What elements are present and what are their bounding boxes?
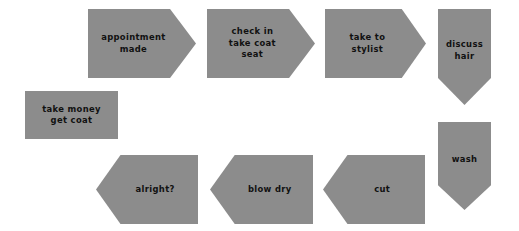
- flowchart-canvas: appointment madecheck in take coat seatt…: [0, 0, 519, 231]
- flow-node-label: wash: [438, 154, 491, 178]
- flow-node-label: alright?: [96, 184, 198, 196]
- flow-node-label: check in take coat seat: [207, 26, 315, 61]
- flow-node-discuss-hair[interactable]: discuss hair: [438, 9, 491, 105]
- flow-node-cut[interactable]: cut: [323, 155, 425, 224]
- flow-node-label: blow dry: [210, 184, 313, 196]
- flow-node-wash[interactable]: wash: [438, 122, 491, 210]
- flow-node-label: discuss hair: [438, 39, 491, 75]
- flow-node-alright[interactable]: alright?: [96, 155, 198, 224]
- flow-node-label: take money get coat: [25, 104, 118, 127]
- flow-node-label: take to stylist: [325, 32, 426, 55]
- flow-node-blow-dry[interactable]: blow dry: [210, 155, 313, 224]
- flow-node-label: appointment made: [88, 32, 196, 55]
- flow-node-appointment-made[interactable]: appointment made: [88, 9, 196, 78]
- flow-node-take-money-get-coat[interactable]: take money get coat: [25, 91, 118, 139]
- flow-node-take-to-stylist[interactable]: take to stylist: [325, 9, 426, 78]
- flow-node-check-in-take-coat-seat[interactable]: check in take coat seat: [207, 9, 315, 78]
- flow-node-label: cut: [323, 184, 425, 196]
